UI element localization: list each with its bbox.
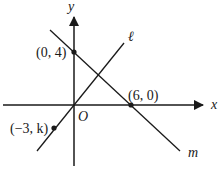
line-m <box>50 30 180 151</box>
line-l-label: ℓ <box>128 29 134 44</box>
point-neg3-k <box>51 125 56 130</box>
point-6-0 <box>128 102 133 107</box>
point-0-4-label: (0, 4) <box>36 45 67 61</box>
coordinate-diagram: y x O ℓ m (0, 4) (6, 0) (−3, k) <box>0 0 221 170</box>
point-0-4 <box>71 49 76 54</box>
point-6-0-label: (6, 0) <box>128 88 159 104</box>
x-axis-label: x <box>210 97 218 112</box>
point-neg3-k-label: (−3, k) <box>10 121 49 137</box>
y-axis-label: y <box>66 0 75 14</box>
line-m-label: m <box>188 145 198 160</box>
origin-label: O <box>78 109 88 124</box>
